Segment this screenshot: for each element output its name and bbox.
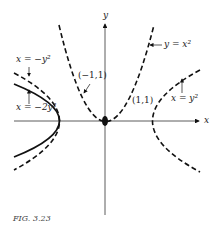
figure-caption: FIG. 3.23 [13, 214, 51, 223]
label-y-equals-x-squared: y = x² [164, 40, 191, 49]
x-axis-label: x [204, 116, 209, 125]
diagram-canvas [0, 0, 218, 233]
point-label-neg1-1: (−1,1) [78, 71, 107, 80]
label-x-equals-y-squared: x = y² [171, 94, 198, 103]
pointer-point-neg1-1 [84, 84, 90, 93]
label-x-equals-neg-y-squared: x = −y² [16, 55, 51, 64]
point-label-1-1: (1,1) [132, 96, 153, 105]
y-axis-label: y [103, 11, 108, 20]
label-x-equals-neg-2y-squared: x = −2y² [16, 103, 56, 112]
curve-x-equals-neg-2y-squared [14, 84, 60, 157]
origin-mark [102, 116, 108, 126]
